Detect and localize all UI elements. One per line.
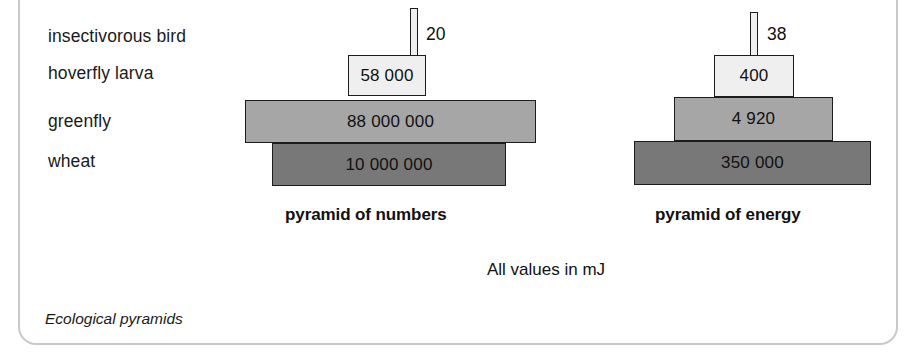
pyramid-title-energy: pyramid of energy bbox=[655, 205, 801, 225]
numbers-bar-wheat: 10 000 000 bbox=[272, 143, 506, 186]
figure-caption: Ecological pyramids bbox=[45, 310, 183, 328]
numbers-bar-insectivorous-bird bbox=[410, 8, 418, 56]
energy-bar-hoverfly-larva: 400 bbox=[714, 55, 794, 97]
energy-value-insectivorous-bird: 38 bbox=[767, 24, 786, 45]
numbers-bar-hoverfly-larva: 58 000 bbox=[348, 55, 426, 96]
trophic-label-hoverfly-larva: hoverfly larva bbox=[48, 63, 153, 84]
units-note: All values in mJ bbox=[487, 260, 605, 280]
trophic-label-insectivorous-bird: insectivorous bird bbox=[48, 26, 186, 47]
numbers-value-insectivorous-bird: 20 bbox=[426, 24, 445, 45]
numbers-bar-greenfly: 88 000 000 bbox=[245, 100, 536, 143]
energy-bar-greenfly: 4 920 bbox=[674, 97, 833, 141]
ecological-pyramids-figure: insectivorous bird hoverfly larva greenf… bbox=[0, 0, 921, 363]
trophic-label-greenfly: greenfly bbox=[48, 111, 111, 132]
energy-bar-insectivorous-bird bbox=[750, 12, 758, 56]
energy-bar-wheat: 350 000 bbox=[634, 141, 871, 185]
pyramid-title-numbers: pyramid of numbers bbox=[285, 205, 447, 225]
trophic-label-wheat: wheat bbox=[48, 151, 95, 172]
